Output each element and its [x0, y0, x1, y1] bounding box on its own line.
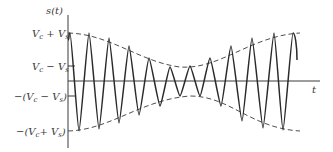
- label-vc-plus-vs: Vc + Vs: [32, 28, 69, 41]
- y-axis-label: s(t): [46, 5, 63, 16]
- label-vc-minus-vs: Vc − Vs: [32, 61, 69, 74]
- label-neg-vc-plus-vs: −(Vc+ Vs): [16, 126, 66, 139]
- label-neg-vc-minus-vs: −(Vc − Vs): [14, 91, 67, 104]
- upper-envelope: [68, 33, 300, 67]
- x-axis-label: t: [312, 84, 317, 95]
- modulated-carrier-waveform: [68, 33, 297, 131]
- am-waveform-diagram: s(t) t Vc + Vs Vc − Vs −(Vc − Vs) −(Vc+ …: [0, 0, 333, 152]
